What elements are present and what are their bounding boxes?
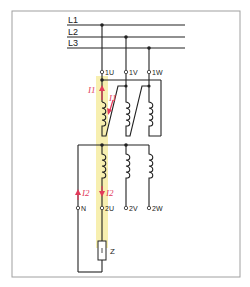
current-label-i2-b: I2	[105, 188, 114, 198]
terminal-n: N	[81, 205, 86, 212]
current-label-i2-a: I2	[81, 188, 90, 198]
terminal-2v: 2V	[129, 205, 138, 212]
bus-label-l3: L3	[68, 38, 78, 48]
current-label-i1-b: I1	[108, 93, 117, 103]
bus-lines	[67, 25, 185, 70]
bus-label-l1: L1	[68, 15, 78, 25]
bus-label-l2: L2	[68, 27, 78, 37]
transformer-diagram: L1 L2 L3 1U 1V 1W I1 I1	[0, 0, 250, 287]
terminal-1v: 1V	[129, 69, 138, 76]
terminal-2w: 2W	[152, 205, 163, 212]
current-label-i1-a: I1	[87, 85, 96, 95]
terminal-1w: 1W	[152, 69, 163, 76]
terminal-2u: 2U	[105, 205, 114, 212]
secondary-windings	[78, 145, 153, 272]
terminal-1u: 1U	[105, 69, 114, 76]
load-label: Z	[110, 247, 115, 256]
primary-windings	[102, 74, 161, 136]
